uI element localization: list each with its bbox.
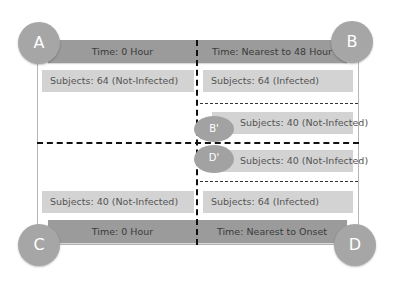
time-label: Time: Nearest to 48 Hour	[212, 46, 332, 57]
time-label: Time: 0 Hour	[92, 226, 153, 237]
dash-dot-separator-upper	[200, 103, 358, 104]
marker-b-prime: B'	[194, 116, 234, 142]
marker-d-prime: D'	[194, 145, 234, 173]
corner-a: A	[18, 22, 60, 64]
time-bar-bottom-right: Time: Nearest to Onset	[197, 220, 347, 243]
subjects-bottom-right: Subjects: 64 (Infected)	[203, 191, 353, 213]
time-bar-top-left: Time: 0 Hour	[48, 40, 197, 63]
time-label: Time: 0 Hour	[92, 46, 153, 57]
time-bar-bottom-left: Time: 0 Hour	[48, 220, 197, 243]
time-label: Time: Nearest to Onset	[217, 226, 327, 237]
subjects-top-right: Subjects: 64 (Infected)	[203, 70, 353, 92]
corner-d: D	[334, 224, 376, 266]
subjects-top-left: Subjects: 64 (Not-Infected)	[42, 70, 194, 92]
time-bar-top-right: Time: Nearest to 48 Hour	[197, 40, 347, 63]
corner-b: B	[331, 21, 373, 63]
horizontal-dashed-divider	[37, 142, 359, 144]
subjects-bottom-left: Subjects: 40 (Not-Infected)	[42, 191, 194, 213]
corner-c: C	[18, 224, 60, 266]
dash-dot-separator-lower	[200, 181, 358, 182]
